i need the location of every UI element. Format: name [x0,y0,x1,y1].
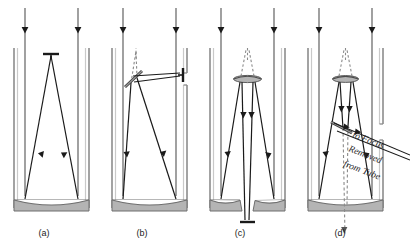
rays-secondary-to-focus-c [240,82,254,220]
virtual-axis-d [341,126,348,236]
panel-d-coude-focus: to Focus Removed from Tube [308,8,410,236]
ray-arrow-down [75,27,82,34]
panel-a-prime-focus [14,8,89,211]
panel-b-newtonian-focus [112,8,187,211]
panel-caption-b: (b) [122,228,162,238]
panel-caption-c: (c) [220,228,260,238]
primary-mirror-a [14,200,89,211]
incoming-rays-b [120,8,180,196]
telescope-focus-diagram: to Focus Removed from Tube (a) (b) (c) (… [0,0,410,247]
diagram-canvas: to Focus Removed from Tube [0,0,410,247]
secondary-convex-mirror-c [234,75,262,82]
coude-annotation-d: to Focus Removed from Tube [342,130,386,182]
panel-caption-d: (d) [320,228,360,238]
virtual-rays-c [241,48,254,76]
panel-c-cassegrain-focus [210,8,285,222]
converging-rays-a [25,56,78,199]
ray-arrow-down [22,27,29,34]
virtual-rays-d [339,48,352,76]
primary-mirror-c [210,200,285,211]
primary-mirror-b [112,200,187,211]
converging-rays-b [123,78,176,199]
secondary-convex-mirror-d [333,76,359,83]
rays-primary-to-secondary-c [221,82,274,199]
primary-mirror-d [308,200,383,211]
rays-secondary-to-tertiary-d [338,82,352,128]
newtonian-focus-detector-b [178,68,183,82]
panel-caption-a: (a) [24,228,64,238]
prime-focus-detector-a [43,54,59,59]
